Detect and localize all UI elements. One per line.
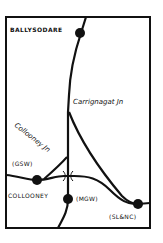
station-ballysodare-marker [75,28,85,38]
railway-map: BALLYSODARE Carrignagat Jn Collooney Jn … [0,0,163,243]
label-ballysodare: BALLYSODARE [10,27,62,33]
label-gsw: (GSW) [12,161,33,167]
label-carrignagat-jn: Carrignagat Jn [73,99,123,106]
carrignagat-branch [69,112,138,204]
label-collooney: COLLOONEY [8,193,48,199]
station-collooney-mgw-marker [63,194,73,204]
station-collooney-gsw-marker [32,175,42,185]
label-slnc: (SL&NC) [109,214,136,220]
label-mgw: (MGW) [76,196,98,202]
station-slnc-marker [133,199,143,209]
railway-lines [0,0,163,243]
